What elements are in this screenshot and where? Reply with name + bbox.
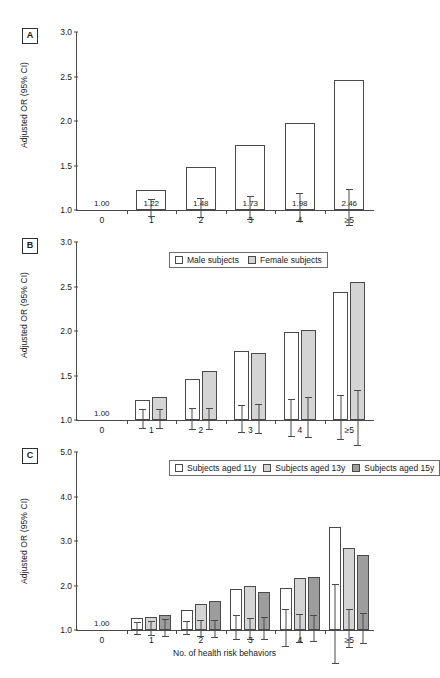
bar-group-bars bbox=[176, 242, 226, 420]
bar-group: 1.984 bbox=[275, 32, 325, 210]
error-bar-cap-top bbox=[189, 408, 196, 409]
bar-group: 1 bbox=[127, 452, 177, 630]
error-bar bbox=[264, 617, 265, 640]
x-axis-tick-label: 4 bbox=[297, 635, 302, 645]
bar-group: 1.000 bbox=[77, 32, 127, 210]
x-axis-tick-label: 3 bbox=[248, 215, 253, 225]
bar bbox=[135, 400, 150, 420]
y-axis-tick: 3.0 bbox=[60, 536, 77, 546]
x-axis-tick-label: 0 bbox=[99, 425, 104, 435]
x-axis-tick-label: 2 bbox=[198, 425, 203, 435]
bar-group: 1 bbox=[127, 242, 177, 420]
panel-b: B Adjusted OR (95% CI) Male subjects Fem… bbox=[0, 236, 386, 441]
x-axis-tick-mark bbox=[275, 630, 276, 634]
x-axis-tick-mark bbox=[127, 210, 128, 214]
error-bar-cap-bottom bbox=[255, 433, 262, 434]
error-bar-cap-bottom bbox=[360, 643, 367, 644]
bar-group-bars bbox=[275, 452, 325, 630]
x-axis-tick-mark bbox=[226, 630, 227, 634]
bar-group-bars bbox=[275, 242, 325, 420]
error-bar-cap-top bbox=[310, 615, 317, 616]
bar-group: 3 bbox=[226, 452, 276, 630]
error-bar-cap-top bbox=[162, 619, 169, 620]
bar bbox=[301, 330, 316, 420]
bar bbox=[244, 586, 256, 631]
error-bar-cap-bottom bbox=[238, 432, 245, 433]
error-bar-cap-bottom bbox=[156, 428, 163, 429]
error-bar-cap-bottom bbox=[288, 436, 295, 437]
bar-group-bars: 1.73 bbox=[226, 32, 276, 210]
x-axis-tick-label: ≥5 bbox=[345, 635, 354, 645]
error-bar-cap-bottom bbox=[211, 637, 218, 638]
error-bar-cap-bottom bbox=[332, 663, 339, 664]
x-axis-tick-mark bbox=[275, 420, 276, 424]
bar bbox=[308, 577, 320, 630]
error-bar-cap-top bbox=[288, 399, 295, 400]
bar bbox=[343, 548, 355, 630]
panel-b-y-axis-label: Adjusted OR (95% CI) bbox=[19, 260, 29, 370]
error-bar bbox=[340, 395, 341, 440]
error-bar-cap-top bbox=[247, 196, 254, 197]
x-axis-title: No. of health risk behaviors bbox=[76, 648, 373, 658]
bar bbox=[258, 592, 270, 630]
error-bar-cap-top bbox=[211, 620, 218, 621]
bar-group: 1.482 bbox=[176, 32, 226, 210]
error-bar-cap-top bbox=[206, 408, 213, 409]
x-axis-tick-mark bbox=[176, 630, 177, 634]
bar-group: ≥5 bbox=[325, 242, 375, 420]
panel-a-y-axis-label: Adjusted OR (95% CI) bbox=[19, 50, 29, 160]
x-axis-tick-mark bbox=[325, 630, 326, 634]
bar bbox=[294, 578, 306, 630]
error-bar bbox=[258, 404, 259, 434]
error-bar-cap-bottom bbox=[162, 636, 169, 637]
error-bar-cap-top bbox=[247, 618, 254, 619]
legend-label-age15: Subjects aged 15y bbox=[364, 463, 434, 473]
error-bar-cap-top bbox=[156, 409, 163, 410]
error-bar-cap-top bbox=[332, 584, 339, 585]
bar-group: 2.46≥5 bbox=[325, 32, 375, 210]
bar-group: 3 bbox=[226, 242, 276, 420]
panel-c: C Adjusted OR (95% CI) Subjects aged 11y… bbox=[0, 446, 386, 678]
bar-group-bars bbox=[226, 452, 276, 630]
bar-value-label: 1.98 bbox=[292, 199, 308, 208]
x-axis-tick-mark bbox=[325, 210, 326, 214]
error-bar-cap-top bbox=[305, 397, 312, 398]
error-bar-cap-top bbox=[255, 404, 262, 405]
x-axis-tick-mark bbox=[176, 420, 177, 424]
y-axis-tick: 2.0 bbox=[60, 581, 77, 591]
bar-value-label: 1.73 bbox=[242, 199, 258, 208]
x-axis-tick-mark bbox=[226, 420, 227, 424]
panel-c-badge: C bbox=[22, 448, 38, 464]
y-axis-tick: 1.0 bbox=[60, 625, 77, 635]
error-bar bbox=[363, 613, 364, 645]
bar-group: ≥5 bbox=[325, 452, 375, 630]
error-bar bbox=[308, 397, 309, 438]
y-axis-tick: 1.5 bbox=[60, 371, 77, 381]
error-bar-cap-top bbox=[238, 405, 245, 406]
bar-group-bars bbox=[77, 452, 127, 630]
error-bar-cap-bottom bbox=[134, 634, 141, 635]
bar-group: 4 bbox=[275, 452, 325, 630]
bar bbox=[209, 601, 221, 630]
error-bar bbox=[159, 409, 160, 429]
y-axis-tick: 5.0 bbox=[60, 447, 77, 457]
x-axis-tick-label: 1 bbox=[149, 425, 154, 435]
x-axis-tick-label: ≥5 bbox=[345, 215, 354, 225]
error-bar-cap-top bbox=[134, 622, 141, 623]
x-axis-tick-mark bbox=[127, 420, 128, 424]
bar bbox=[333, 292, 348, 420]
bar: 1.98 bbox=[285, 123, 315, 210]
y-axis-tick: 1.0 bbox=[60, 205, 77, 215]
bar-group-bars bbox=[325, 242, 375, 420]
bar: 2.46 bbox=[334, 80, 364, 210]
error-bar bbox=[291, 399, 292, 436]
error-bar-cap-top bbox=[183, 621, 190, 622]
bar bbox=[280, 588, 292, 630]
bar-value-label: 2.46 bbox=[341, 199, 357, 208]
bar-group: 4 bbox=[275, 242, 325, 420]
x-axis-tick-mark bbox=[325, 420, 326, 424]
bar: 1.73 bbox=[235, 145, 265, 210]
y-axis-tick: 3.0 bbox=[60, 27, 77, 37]
bar bbox=[159, 615, 171, 630]
